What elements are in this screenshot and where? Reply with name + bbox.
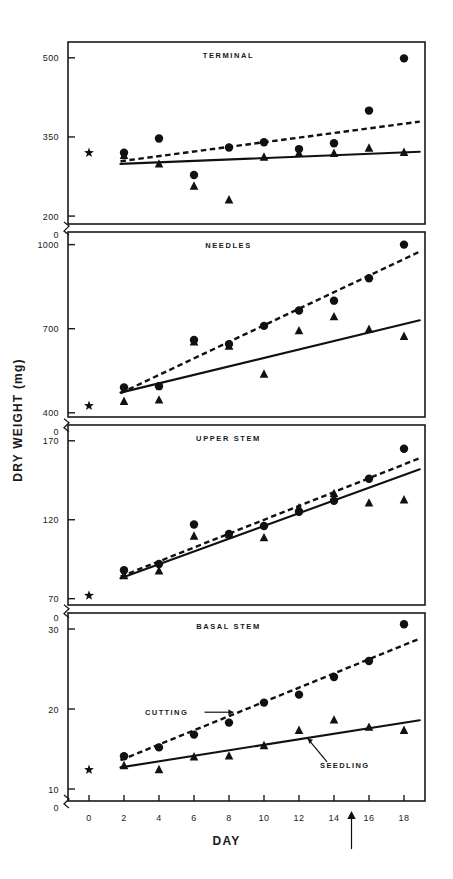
x-tick-label: 6 [191,813,196,823]
data-point-cutting [295,690,303,698]
y-tick-label: 170 [43,436,59,446]
fit-line-cutting [121,639,420,761]
y-tick-label: 10 [48,785,59,795]
seedling-annotation-label: SEEDLING [320,761,370,770]
data-point-seedling [295,326,304,334]
y-zero-label: 0 [54,427,59,437]
panel-terminal: TERMINAL2003505000 [43,42,425,240]
data-point-seedling [190,181,199,189]
y-tick-label: 70 [48,594,59,604]
data-point-cutting [155,382,163,390]
data-point-seedling [295,503,304,511]
y-zero-label: 0 [54,803,59,813]
data-point-seedling [120,761,129,769]
data-point-seedling [400,726,409,734]
data-point-seedling [400,332,409,340]
initial-star-marker [84,401,94,410]
data-point-cutting [330,296,338,304]
x-tick-label: 18 [399,813,410,823]
initial-star-marker [84,590,94,599]
data-point-seedling [225,751,234,759]
fit-line-cutting [121,122,420,162]
y-tick-label: 20 [48,705,59,715]
data-point-seedling [365,498,374,506]
data-point-seedling [330,149,339,157]
data-point-cutting [260,522,268,530]
x-tick-label: 16 [364,813,375,823]
data-point-cutting [330,497,338,505]
data-point-cutting [330,139,338,147]
data-point-cutting [190,520,198,528]
panel-needles: NEEDLES40070010000 [37,232,425,437]
data-point-seedling [155,395,164,403]
data-point-seedling [190,531,199,539]
data-point-seedling [225,195,234,203]
panel-title: BASAL STEM [196,622,261,631]
data-point-cutting [260,138,268,146]
data-point-seedling [260,533,269,541]
data-point-cutting [400,444,408,452]
data-point-seedling [155,566,164,574]
x-tick-label: 0 [86,813,91,823]
data-point-cutting [330,673,338,681]
x-tick-label: 4 [156,813,161,823]
data-point-cutting [190,171,198,179]
fit-line-seedling [121,320,420,392]
day-marker-arrow-head [347,811,355,819]
y-tick-label: 500 [43,53,59,63]
x-tick-label: 2 [121,813,126,823]
data-point-cutting [400,54,408,62]
panel-upper-stem: UPPER STEM701201700 [43,425,425,623]
data-point-cutting [295,306,303,314]
panel-title: TERMINAL [203,51,255,60]
y-tick-label: 200 [43,212,59,222]
data-point-cutting [225,143,233,151]
data-point-seedling [365,325,374,333]
data-point-seedling [260,152,269,160]
data-point-cutting [190,730,198,738]
data-point-seedling [365,143,374,151]
fit-line-seedling [121,720,420,767]
panel-basal-stem: BASAL STEM1020300024681012141618 [48,613,425,823]
data-point-seedling [295,726,304,734]
cutting-annotation-label: CUTTING [145,708,188,717]
y-tick-label: 1000 [37,240,59,250]
panel-frame [68,613,425,801]
y-tick-label: 120 [43,515,59,525]
data-point-cutting [365,474,373,482]
data-point-seedling [120,397,129,405]
x-tick-label: 8 [226,813,231,823]
x-axis-title: DAY [213,834,241,848]
multi-panel-chart: TERMINAL2003505000NEEDLES40070010000UPPE… [0,0,453,879]
fit-line-cutting [121,458,420,576]
y-tick-label: 30 [48,625,59,635]
fit-line-cutting [121,252,420,394]
data-point-cutting [365,274,373,282]
axis-titles: DRY WEIGHT (mg)DAY [11,358,240,848]
data-point-seedling [330,715,339,723]
data-point-cutting [400,620,408,628]
data-point-seedling [155,765,164,773]
data-point-seedling [365,722,374,730]
data-point-cutting [365,106,373,114]
y-zero-label: 0 [54,230,59,240]
initial-star-marker [84,148,94,157]
data-point-seedling [260,369,269,377]
y-axis-title: DRY WEIGHT (mg) [11,358,25,481]
panel-title: NEEDLES [205,241,252,250]
data-point-cutting [400,240,408,248]
x-tick-label: 14 [329,813,340,823]
data-point-cutting [120,752,128,760]
fit-line-seedling [121,152,420,164]
data-point-cutting [155,743,163,751]
initial-star-marker [84,765,94,774]
data-point-seedling [400,495,409,503]
y-tick-label: 400 [43,408,59,418]
x-tick-label: 12 [294,813,305,823]
figure-root: TERMINAL2003505000NEEDLES40070010000UPPE… [0,0,453,879]
data-point-cutting [155,134,163,142]
x-tick-label: 10 [259,813,270,823]
panel-annotations: CUTTINGSEEDLING [145,708,370,849]
data-point-cutting [120,383,128,391]
y-tick-label: 350 [43,132,59,142]
